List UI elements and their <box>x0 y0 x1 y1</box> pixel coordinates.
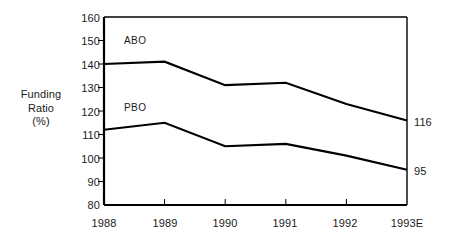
plot-area <box>0 0 451 243</box>
series-line-pbo <box>104 123 407 170</box>
series-line-abo <box>104 62 407 121</box>
funding-ratio-chart: Funding Ratio (%) 160 150 140 130 120 11… <box>0 0 451 243</box>
axis-frame <box>104 17 407 205</box>
